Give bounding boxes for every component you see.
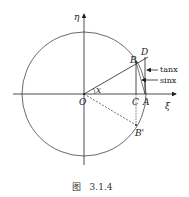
point-o [83,93,85,95]
unit-circle-diagram: η ξ O C A B D B' x tanx sinx 图 3.1.4 [0,0,189,197]
tan-label: tanx [160,65,178,74]
label-c: C [132,97,139,107]
ray-ob-prime [84,94,136,125]
eta-label: η [74,12,80,22]
angle-arc [94,89,96,95]
angle-label: x [96,85,101,95]
point-b-prime [135,124,137,126]
label-b-prime: B' [134,128,144,138]
figure-caption: 图 3.1.4 [72,182,113,192]
label-a: A [142,97,150,107]
label-o: O [79,97,87,107]
sin-label: sinx [160,76,177,85]
xi-label: ξ [165,101,171,111]
label-d: D [140,47,148,57]
label-b: B [129,55,137,65]
